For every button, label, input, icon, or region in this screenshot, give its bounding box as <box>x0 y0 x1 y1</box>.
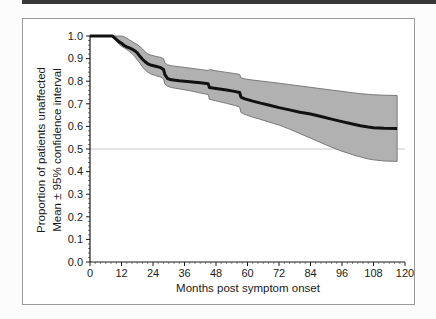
x-tick-label: 36 <box>178 267 190 279</box>
x-tick-label: 120 <box>396 267 414 279</box>
y-tick-label: 0.1 <box>68 233 83 245</box>
y-tick-label: 0.6 <box>68 120 83 132</box>
figure-frame: 0.00.10.20.30.40.50.60.70.80.91.00122436… <box>22 18 415 305</box>
x-tick-label: 0 <box>87 267 93 279</box>
x-tick-label: 84 <box>304 267 316 279</box>
y-axis-title: Proportion of patients unaffected Mean ±… <box>33 37 67 263</box>
y-tick-label: 0.7 <box>68 98 83 110</box>
y-tick-label: 0.2 <box>68 211 83 223</box>
y-tick-label: 0.4 <box>68 165 83 177</box>
y-tick-label: 0.0 <box>68 256 83 268</box>
y-tick-label: 0.5 <box>68 143 83 155</box>
y-tick-label: 1.0 <box>68 30 83 42</box>
survival-chart: 0.00.10.20.30.40.50.60.70.80.91.00122436… <box>23 19 414 304</box>
x-tick-label: 108 <box>364 267 382 279</box>
x-tick-label: 72 <box>273 267 285 279</box>
y-tick-label: 0.3 <box>68 188 83 200</box>
x-tick-label: 24 <box>147 267 159 279</box>
x-tick-label: 48 <box>210 267 222 279</box>
y-tick-label: 0.9 <box>68 52 83 64</box>
x-tick-label: 96 <box>336 267 348 279</box>
page: 0.00.10.20.30.40.50.60.70.80.91.00122436… <box>0 0 436 319</box>
x-tick-label: 60 <box>241 267 253 279</box>
x-tick-label: 12 <box>115 267 127 279</box>
y-tick-label: 0.8 <box>68 75 83 87</box>
y-axis-title-line2: Mean ± 95% confidence interval <box>49 37 65 263</box>
y-axis-title-line1: Proportion of patients unaffected <box>33 37 49 263</box>
x-axis-title: Months post symptom onset <box>98 280 398 296</box>
top-rule <box>22 0 436 4</box>
